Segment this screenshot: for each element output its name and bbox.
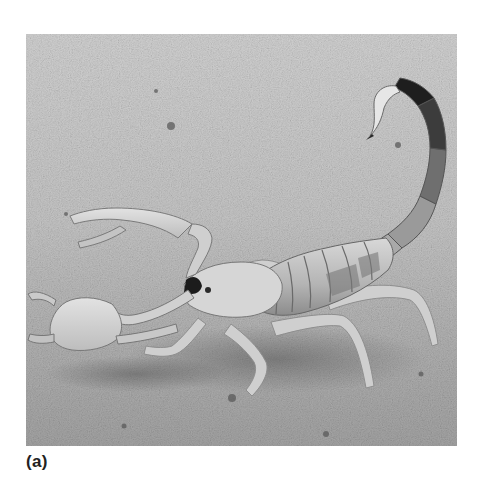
scorpion-photo	[26, 34, 457, 446]
figure-panel-label: (a)	[26, 452, 48, 472]
scorpion-illustration	[26, 34, 457, 446]
